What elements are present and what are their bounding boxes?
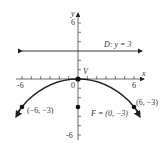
- point-neg6-neg3-label: (−6, −3): [27, 106, 54, 115]
- origin-label: 0: [71, 81, 75, 90]
- x-axis-label: x: [141, 69, 146, 78]
- vertex-label: V: [83, 67, 89, 76]
- x-tick-neg6: -6: [17, 81, 24, 90]
- y-axis: y 6 -6: [66, 9, 81, 140]
- focus-point: [76, 105, 81, 110]
- directrix-line: D: y = 3: [22, 40, 142, 51]
- point-neg6-neg3: [20, 105, 25, 110]
- focus-label: F = (0, −3): [90, 109, 128, 118]
- point-6-neg3-label: (6, −3): [136, 98, 158, 107]
- x-tick-6: 6: [132, 81, 136, 90]
- y-axis-label: y: [70, 9, 75, 18]
- y-tick-6: 6: [71, 18, 75, 27]
- vertex-point: [75, 76, 80, 81]
- parabola-diagram: x -6 0 6 y 6 -6 D: y = 3: [0, 0, 168, 151]
- directrix-label: D: y = 3: [103, 40, 131, 49]
- y-tick-neg6: -6: [66, 131, 73, 140]
